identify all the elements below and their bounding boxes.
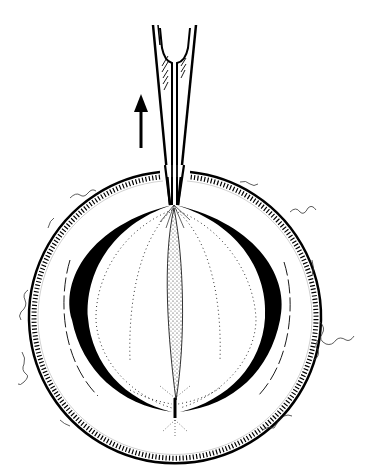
figure-canvas [0, 0, 382, 473]
stippled-spindle [167, 208, 182, 400]
forceps-instrument [153, 25, 196, 228]
illustration [0, 0, 382, 473]
upward-arrow-icon [134, 94, 148, 148]
